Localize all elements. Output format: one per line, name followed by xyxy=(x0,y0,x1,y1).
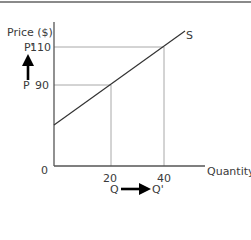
price-arrow-up-icon xyxy=(22,54,34,66)
supply-label: S xyxy=(186,30,193,41)
q-prime-label: Q' xyxy=(152,184,164,195)
origin-label: 0 xyxy=(41,165,48,176)
y-tick-90: 90 xyxy=(35,80,49,91)
p-label: P xyxy=(23,80,30,91)
y-tick-110: 110 xyxy=(30,42,51,53)
q-label: Q xyxy=(110,184,119,195)
x-axis-label: Quantity xyxy=(207,166,251,177)
y-axis-label: Price ($) xyxy=(7,27,53,38)
supply-curve xyxy=(54,31,185,125)
quantity-arrow-right-icon xyxy=(139,183,151,195)
